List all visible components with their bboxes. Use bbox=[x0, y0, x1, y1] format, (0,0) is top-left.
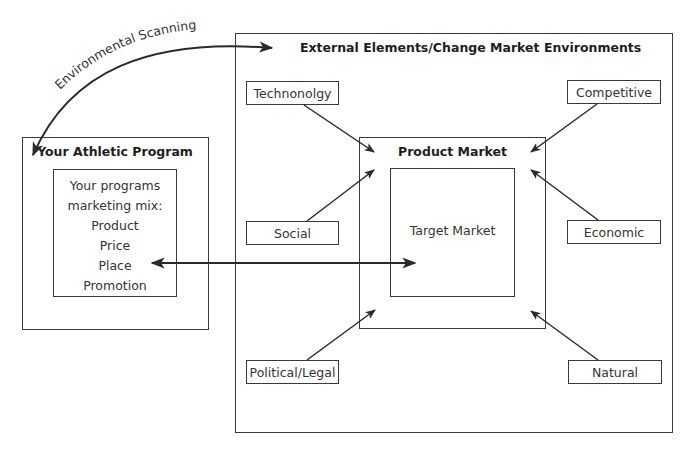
product-market-title: Product Market bbox=[359, 144, 546, 159]
mix-line-2: marketing mix: bbox=[53, 196, 177, 216]
factor-competitive: Competitive bbox=[567, 80, 661, 104]
environmental-scanning-label: Environmental Scanning bbox=[52, 17, 197, 92]
mix-line-promotion: Promotion bbox=[53, 276, 177, 296]
mix-line-place: Place bbox=[53, 256, 177, 276]
athletic-program-title: Your Athletic Program bbox=[30, 144, 200, 159]
target-market-label: Target Market bbox=[390, 223, 515, 238]
factor-technology: Technonolgy bbox=[246, 81, 339, 105]
marketing-environment-diagram: External Elements/Change Market Environm… bbox=[0, 0, 694, 449]
mix-line-product: Product bbox=[53, 216, 177, 236]
external-environment-title: External Elements/Change Market Environm… bbox=[300, 40, 620, 55]
marketing-mix-text: Your programs marketing mix: Product Pri… bbox=[53, 176, 177, 296]
mix-line-1: Your programs bbox=[53, 176, 177, 196]
factor-economic: Economic bbox=[567, 220, 661, 244]
factor-political-legal: Political/Legal bbox=[246, 360, 339, 384]
factor-social: Social bbox=[246, 221, 339, 245]
mix-line-price: Price bbox=[53, 236, 177, 256]
factor-natural: Natural bbox=[568, 360, 662, 384]
